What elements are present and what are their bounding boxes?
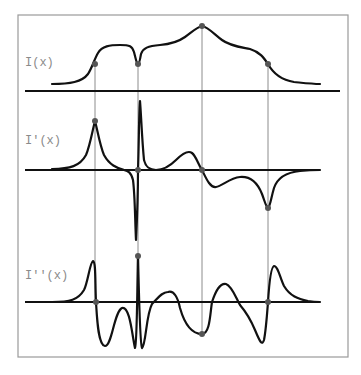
marker-second-derivative-4 bbox=[265, 299, 271, 305]
label-first-derivative: I′(x) bbox=[25, 134, 61, 148]
derivative-diagram: I(x) I′(x) I′′(x) bbox=[0, 0, 361, 375]
marker-intensity-4 bbox=[265, 61, 271, 67]
figure-frame bbox=[18, 15, 348, 357]
intensity-curve bbox=[52, 26, 320, 84]
marker-second-derivative-3 bbox=[199, 331, 205, 337]
guide-lines bbox=[95, 26, 268, 334]
marker-first-derivative-4 bbox=[265, 205, 271, 211]
marker-first-derivative-1 bbox=[92, 118, 98, 124]
marker-intensity-3 bbox=[199, 23, 205, 29]
label-second-derivative: I′′(x) bbox=[25, 269, 68, 283]
marker-intensity-1 bbox=[92, 61, 98, 67]
marker-second-derivative-2 bbox=[135, 253, 141, 259]
marker-intensity-2 bbox=[135, 61, 141, 67]
marker-second-derivative-1 bbox=[93, 299, 99, 305]
marker-first-derivative-3 bbox=[199, 167, 205, 173]
marker-first-derivative-2 bbox=[135, 167, 141, 173]
markers bbox=[92, 23, 271, 337]
label-intensity: I(x) bbox=[25, 56, 54, 70]
